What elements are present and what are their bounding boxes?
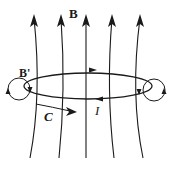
label-contour-c: C xyxy=(44,109,53,124)
left-field-loop xyxy=(8,78,30,100)
arrowhead-icon xyxy=(30,14,38,27)
field-arrowheads xyxy=(30,14,144,27)
label-current-i: I xyxy=(94,103,100,118)
right-field-loop xyxy=(143,79,165,101)
field-line-2 xyxy=(59,18,63,158)
contour-c-arrowhead xyxy=(66,107,77,116)
arrowhead-icon xyxy=(136,14,144,27)
contour-c-path xyxy=(36,104,70,111)
field-line-4 xyxy=(109,18,114,158)
field-line-5 xyxy=(136,18,143,158)
current-loop xyxy=(24,73,152,99)
left-loop-arrow-up xyxy=(6,88,11,94)
label-induced-field-b-prime: B' xyxy=(19,66,30,80)
label-field-b: B xyxy=(69,6,78,21)
field-lines xyxy=(30,18,143,158)
arrowhead-icon xyxy=(108,14,116,27)
field-diagram: B B' C I xyxy=(0,0,172,169)
diagram-canvas: B B' C I xyxy=(0,0,172,169)
right-loop-arrow-up xyxy=(162,88,167,94)
loop-direction-arrow-bottom xyxy=(95,97,103,102)
loop-direction-arrow-top xyxy=(89,68,97,73)
